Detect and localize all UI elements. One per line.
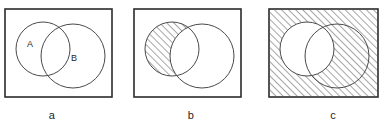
panel-c: c bbox=[264, 0, 385, 130]
panel-c-diagram bbox=[264, 0, 385, 108]
circle-b-label: B bbox=[71, 53, 77, 63]
panel-a: A B a bbox=[0, 0, 128, 130]
shaded-region-a-minus-b bbox=[134, 9, 241, 97]
panel-c-caption: c bbox=[269, 108, 385, 122]
panel-a-diagram: A B bbox=[0, 0, 128, 108]
universe-rectangle bbox=[5, 9, 112, 97]
circle-a-label: A bbox=[27, 39, 33, 49]
shaded-region-complement-of-a bbox=[270, 10, 377, 96]
panel-b-caption: b bbox=[127, 108, 255, 122]
panel-b: b bbox=[129, 0, 257, 130]
venn-figure: A B a b bbox=[0, 0, 385, 130]
panel-b-diagram bbox=[129, 0, 257, 108]
panel-a-caption: a bbox=[0, 108, 116, 122]
